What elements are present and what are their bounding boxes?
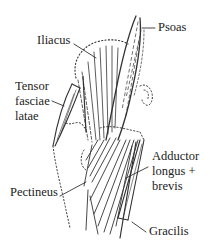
hip-muscle-diagram: Psoas Iliacus Tensor fasciae latae Adduc… <box>0 0 210 245</box>
label-adductor-longus-brevis: Adductor longus + brevis <box>152 149 199 194</box>
pectineus-muscle <box>84 138 116 186</box>
label-iliacus: Iliacus <box>37 33 70 48</box>
psoas-muscle <box>106 16 136 140</box>
label-tensor-fasciae-latae: Tensor fasciae latae <box>15 79 50 124</box>
ischium-outline <box>140 85 152 105</box>
femur-outline <box>66 123 86 130</box>
label-gracilis: Gracilis <box>149 224 189 239</box>
tensor-fasciae-latae-muscle <box>53 84 80 146</box>
label-pectineus: Pectineus <box>10 185 58 200</box>
label-psoas: Psoas <box>158 20 186 35</box>
